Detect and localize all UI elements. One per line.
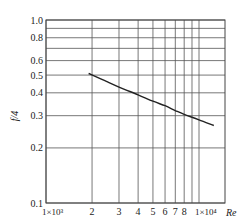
- x-axis-label: Re: [225, 207, 237, 218]
- y-tick-label: 0.3: [31, 110, 44, 121]
- x-tick-label: 1×10³: [42, 207, 64, 217]
- y-tick-label: 0.4: [31, 87, 44, 98]
- x-tick-label: 1×10⁴: [195, 207, 217, 217]
- horizontal-gridlines: [46, 20, 225, 203]
- y-tick-label: 0.5: [31, 70, 44, 81]
- x-tick-label: 6: [163, 206, 168, 217]
- x-tick-label: 3: [116, 206, 121, 217]
- data-curve: [89, 74, 214, 126]
- x-tick-label: 2: [90, 206, 95, 217]
- y-tick-labels: 1.00.80.60.50.40.30.20.1: [31, 15, 44, 209]
- y-tick-label: 0.2: [31, 142, 44, 153]
- plot-frame: [46, 20, 225, 203]
- x-tick-label: 5: [150, 206, 155, 217]
- y-tick-label: 0.6: [31, 55, 44, 66]
- x-tick-label: 7: [173, 206, 178, 217]
- x-tick-label: 8: [182, 206, 187, 217]
- x-tick-label: 4: [136, 206, 141, 217]
- x-tick-labels: 1×10³23456781×10⁴: [42, 206, 217, 217]
- y-tick-label: 0.8: [31, 32, 44, 43]
- chart: 1.00.80.60.50.40.30.20.1 1×10³23456781×1…: [0, 0, 242, 224]
- y-axis-label: f/4: [9, 111, 20, 122]
- y-tick-label: 1.0: [31, 15, 44, 26]
